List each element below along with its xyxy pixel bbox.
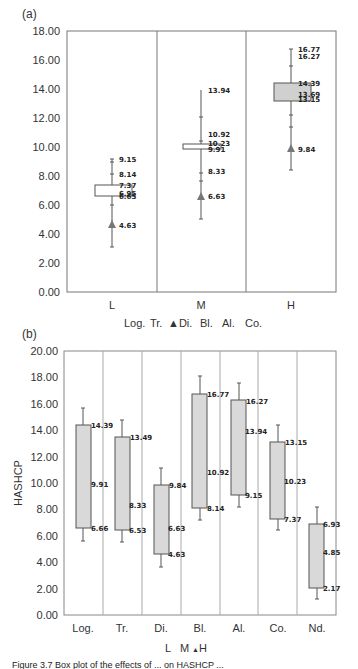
svg-text:9.91: 9.91 <box>91 481 108 489</box>
y-tick: 0.00 <box>39 286 60 298</box>
svg-text:6.63: 6.63 <box>168 525 185 533</box>
svg-text:4.63: 4.63 <box>168 551 185 559</box>
panel-a-group-h: 16.77 16.27 14.39 13.69 13.15 9.84 <box>274 46 320 170</box>
panel-a-legend: Log. Tr. ▲Di. Bl. Al. Co. <box>124 317 262 329</box>
figure-caption: Figure 3.7 Box plot of the effects of ..… <box>12 660 224 669</box>
svg-text:14.39: 14.39 <box>298 80 320 88</box>
svg-text:Al.: Al. <box>233 622 246 634</box>
panel-b-label: (b) <box>22 327 37 341</box>
svg-text:13.94: 13.94 <box>208 87 230 95</box>
svg-text:10.00: 10.00 <box>30 477 58 489</box>
svg-text:2.00: 2.00 <box>37 583 58 595</box>
svg-text:7.37: 7.37 <box>119 182 136 190</box>
svg-text:8.33: 8.33 <box>208 168 225 176</box>
svg-text:18.00: 18.00 <box>30 371 58 383</box>
svg-text:4.85: 4.85 <box>323 549 340 557</box>
svg-text:16.00: 16.00 <box>30 398 58 410</box>
svg-text:8.33: 8.33 <box>129 502 146 510</box>
svg-text:8.14: 8.14 <box>207 505 224 513</box>
svg-text:9.15: 9.15 <box>119 156 136 164</box>
x-category: H <box>287 299 295 311</box>
legend-item: ▲Di. <box>168 317 192 329</box>
svg-text:13.49: 13.49 <box>130 434 152 442</box>
panel-b-box-al: 16.27 13.94 9.15 <box>231 383 268 507</box>
panel-b-box-bl: 16.77 10.92 8.14 <box>192 376 229 520</box>
legend-item: Al. <box>222 317 235 329</box>
svg-text:16.27: 16.27 <box>246 398 268 406</box>
svg-text:7.37: 7.37 <box>284 516 301 524</box>
y-tick: 10.00 <box>32 141 60 153</box>
panel-b-box-di: 9.84 6.63 4.63 <box>154 468 186 567</box>
y-tick: 4.00 <box>39 228 60 240</box>
y-tick: 14.00 <box>32 83 60 95</box>
svg-text:13.94: 13.94 <box>245 428 267 436</box>
svg-text:16.77: 16.77 <box>207 391 229 399</box>
svg-text:12.00: 12.00 <box>30 451 58 463</box>
svg-text:20.00: 20.00 <box>30 345 58 357</box>
panel-a-label: (a) <box>22 7 37 21</box>
panel-b-box-tr: 13.49 8.33 6.53 <box>115 420 152 542</box>
svg-text:Tr.: Tr. <box>116 622 128 634</box>
svg-text:6.63: 6.63 <box>208 193 225 201</box>
panel-a-y-axis: 18.00 16.00 14.00 12.00 10.00 8.00 6.00 … <box>32 25 60 298</box>
legend-item: Log. <box>124 317 145 329</box>
panel-a-group-m: 13.94 10.92 10.23 9.91 8.33 6.63 <box>183 87 230 219</box>
y-tick: 18.00 <box>32 25 60 37</box>
y-tick: 8.00 <box>39 170 60 182</box>
svg-text:13.15: 13.15 <box>285 439 307 447</box>
legend-item: Co. <box>245 317 262 329</box>
y-axis-label: HASHCP <box>12 460 24 506</box>
panel-b-x-axis: Log. Tr. Di. Bl. Al. Co. Nd. <box>72 622 325 634</box>
svg-text:Bl.: Bl. <box>194 622 207 634</box>
svg-text:6.66: 6.66 <box>91 525 108 533</box>
svg-text:10.23: 10.23 <box>284 478 306 486</box>
svg-text:Log.: Log. <box>72 622 93 634</box>
svg-text:2.17: 2.17 <box>323 585 340 593</box>
legend-item: Tr. <box>150 317 162 329</box>
svg-text:0.00: 0.00 <box>37 609 58 621</box>
svg-text:6.53: 6.53 <box>129 527 146 535</box>
figure: (a) 18.00 16.00 14.00 12.00 10.00 8.00 6… <box>0 0 358 669</box>
svg-text:9.15: 9.15 <box>245 492 262 500</box>
svg-text:10.92: 10.92 <box>207 469 229 477</box>
svg-text:9.91: 9.91 <box>208 146 225 154</box>
svg-text:6.65: 6.65 <box>119 193 136 201</box>
svg-text:8.14: 8.14 <box>119 171 136 179</box>
y-tick: 6.00 <box>39 199 60 211</box>
triangle-marker-icon <box>197 192 205 200</box>
y-tick: 2.00 <box>39 257 60 269</box>
svg-text:Di.: Di. <box>154 622 167 634</box>
svg-text:13.15: 13.15 <box>298 96 320 104</box>
svg-text:8.00: 8.00 <box>37 503 58 515</box>
svg-text:10.92: 10.92 <box>208 131 230 139</box>
svg-text:14.00: 14.00 <box>30 424 58 436</box>
triangle-marker-icon <box>287 144 295 152</box>
svg-text:14.39: 14.39 <box>91 422 113 430</box>
svg-text:9.84: 9.84 <box>298 146 315 154</box>
panel-a-group-l: 9.15 8.14 7.37 6.95 6.65 4.63 <box>95 156 136 247</box>
svg-text:16.27: 16.27 <box>298 53 320 61</box>
panel-a-x-axis: L M H <box>109 299 295 311</box>
x-category: M <box>196 299 205 311</box>
svg-text:6.93: 6.93 <box>323 521 340 529</box>
legend-item: L <box>165 642 171 654</box>
y-tick: 12.00 <box>32 112 60 124</box>
legend-item: Bl. <box>200 317 213 329</box>
svg-text:6.00: 6.00 <box>37 530 58 542</box>
legend-item: H <box>199 642 207 654</box>
legend-item: M <box>180 642 189 654</box>
triangle-legend-icon: ▲ <box>192 646 199 653</box>
svg-text:Co.: Co. <box>269 622 286 634</box>
panel-b-box-nd: 6.93 4.85 2.17 <box>309 507 340 599</box>
panel-b-box-co: 13.15 10.23 7.37 <box>270 425 307 530</box>
svg-text:4.63: 4.63 <box>119 222 136 230</box>
triangle-marker-icon <box>108 220 116 228</box>
x-category: L <box>109 299 115 311</box>
y-tick: 16.00 <box>32 54 60 66</box>
panel-b-legend: L M ▲ H <box>165 642 207 654</box>
panel-b-box-log: 14.39 9.91 6.66 <box>76 408 113 541</box>
panel-b-y-axis: 20.00 18.00 16.00 14.00 12.00 10.00 8.00… <box>30 345 58 621</box>
svg-text:9.84: 9.84 <box>169 482 186 490</box>
svg-text:Nd.: Nd. <box>308 622 325 634</box>
svg-text:4.00: 4.00 <box>37 556 58 568</box>
